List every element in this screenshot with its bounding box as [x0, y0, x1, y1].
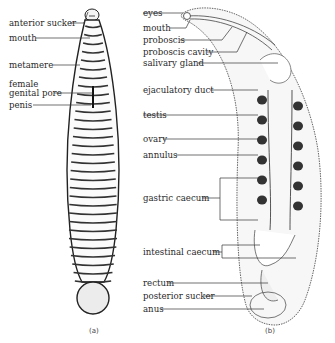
label-eyes: eyes [143, 9, 162, 18]
label-anus: anus [143, 305, 164, 314]
label-ovary: ovary [143, 135, 167, 144]
caption-a: (a) [89, 327, 99, 335]
label-proboscis-cavity: proboscis cavity [143, 48, 213, 57]
label-anterior-sucker: anterior sucker [9, 19, 76, 28]
label-rectum: rectum [143, 279, 174, 288]
label-penis: penis [9, 101, 32, 110]
label-ejaculatory-duct: ejaculatory duct [143, 86, 214, 95]
label-proboscis: proboscis [143, 36, 185, 45]
label-genital-pore: genital pore [9, 89, 62, 98]
label-mouth-b: mouth [143, 24, 171, 33]
label-metamere: metamere [9, 61, 53, 70]
label-intestinal-caecum: intestinal caecum [143, 248, 220, 257]
label-gastric-caecum: gastric caecum [143, 194, 209, 203]
label-salivary-gland: salivary gland [143, 59, 204, 68]
label-annulus: annulus [143, 151, 177, 160]
caption-b: (b) [265, 327, 275, 335]
label-posterior-sucker: posterior sucker [143, 292, 215, 301]
label-mouth-a: mouth [9, 34, 37, 43]
label-testis: testis [143, 111, 167, 120]
posterior-sucker-a [77, 282, 109, 314]
